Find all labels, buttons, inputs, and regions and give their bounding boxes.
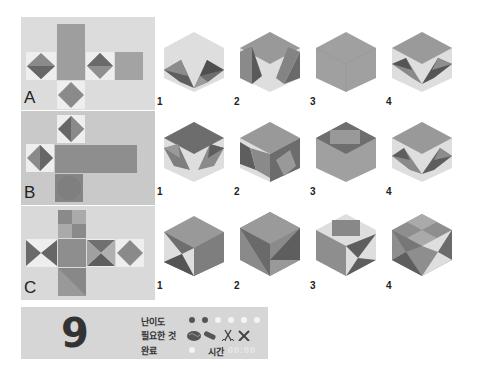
option-number: 2 bbox=[234, 186, 240, 197]
difficulty-label: 난이도 bbox=[141, 315, 165, 328]
option-number: 2 bbox=[234, 280, 240, 291]
puzzle-label: C bbox=[24, 278, 36, 298]
option-number: 2 bbox=[234, 96, 240, 107]
cube-net-c bbox=[21, 206, 155, 300]
difficulty-dot-empty bbox=[215, 317, 221, 323]
scissors-icon bbox=[222, 330, 233, 341]
difficulty-dot-filled bbox=[189, 317, 195, 323]
cube-net-a bbox=[21, 17, 155, 110]
net-panel-a: A bbox=[21, 17, 155, 110]
cube-option-a3[interactable] bbox=[312, 30, 380, 94]
option-number: 3 bbox=[310, 186, 316, 197]
tools-icon bbox=[239, 331, 249, 341]
difficulty-dot-empty bbox=[241, 317, 247, 323]
done-label: 완료 bbox=[141, 344, 157, 357]
cube-option-c1[interactable] bbox=[160, 214, 228, 278]
cube-option-a2[interactable] bbox=[236, 30, 304, 94]
cube-option-b2[interactable] bbox=[236, 120, 304, 184]
cube-option-b1[interactable] bbox=[160, 120, 228, 184]
cube-option-c2[interactable] bbox=[236, 210, 304, 278]
net-panel-b: B bbox=[21, 111, 155, 205]
difficulty-dot-empty bbox=[228, 317, 234, 323]
cube-net-b bbox=[21, 111, 155, 205]
brain-icon bbox=[187, 331, 201, 341]
required-tools bbox=[187, 329, 259, 341]
option-number: 4 bbox=[386, 96, 392, 107]
cube-option-c4[interactable] bbox=[388, 212, 456, 278]
cube-option-b4[interactable] bbox=[388, 120, 456, 184]
puzzle-label: B bbox=[24, 183, 35, 203]
difficulty-dot-filled bbox=[202, 317, 208, 323]
option-number: 3 bbox=[310, 96, 316, 107]
option-number: 3 bbox=[310, 280, 316, 291]
cube-option-a4[interactable] bbox=[388, 30, 456, 94]
option-number: 4 bbox=[386, 280, 392, 291]
option-number: 4 bbox=[386, 186, 392, 197]
option-number: 1 bbox=[157, 280, 163, 291]
done-checkbox[interactable] bbox=[189, 347, 195, 353]
puzzle-label: A bbox=[24, 88, 35, 108]
difficulty-dot-empty bbox=[254, 317, 260, 323]
required-label: 필요한 것 bbox=[141, 329, 176, 342]
cube-option-c3[interactable] bbox=[312, 212, 380, 278]
cube-option-b3[interactable] bbox=[312, 120, 380, 184]
puzzle-info-panel: 9 난이도 필요한 것 완료 시간 00:00 bbox=[21, 307, 268, 359]
net-panel-c: C bbox=[21, 206, 155, 300]
pencil-icon bbox=[203, 331, 216, 341]
time-label: 시간 bbox=[208, 345, 224, 358]
option-number: 1 bbox=[157, 96, 163, 107]
option-number: 1 bbox=[157, 186, 163, 197]
time-value[interactable]: 00:00 bbox=[228, 345, 256, 355]
puzzle-number: 9 bbox=[61, 307, 89, 359]
cube-option-a1[interactable] bbox=[160, 30, 228, 94]
